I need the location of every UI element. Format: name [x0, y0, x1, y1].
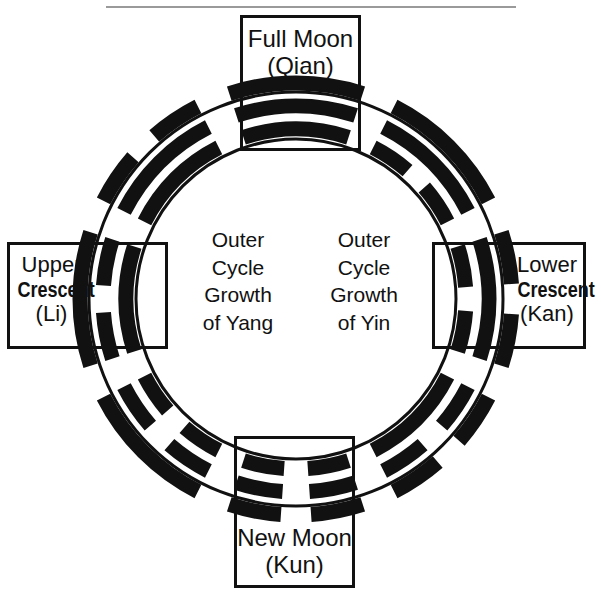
upper-crescent-line1: Upper — [10, 253, 93, 278]
legend-yang-line3: Growth — [182, 281, 294, 309]
legend-yin-line4: of Yin — [308, 309, 420, 337]
upper-crescent-line3: (Li) — [10, 302, 93, 327]
bagua-cycle-diagram: Full Moon (Qian) New Moon (Kun) Upper Cr… — [0, 0, 601, 597]
full-moon-line1: Full Moon — [243, 26, 358, 53]
center-legend-yin: Outer Cycle Growth of Yin — [308, 226, 420, 337]
label-box-full-moon: Full Moon (Qian) — [240, 15, 361, 151]
new-moon-line1: New Moon — [237, 525, 352, 552]
upper-crescent-line2: Crescent — [17, 278, 85, 303]
legend-yang-line4: of Yang — [182, 309, 294, 337]
label-box-upper-crescent: Upper Crescent (Li) — [7, 242, 168, 349]
label-box-lower-crescent: Lower Crescent (Kan) — [432, 242, 586, 349]
lower-crescent-line1: Lower — [511, 253, 583, 278]
lower-crescent-line2: Crescent — [517, 278, 576, 303]
legend-yin-line2: Cycle — [308, 254, 420, 282]
label-box-new-moon: New Moon (Kun) — [234, 436, 355, 588]
center-legend-yang: Outer Cycle Growth of Yang — [182, 226, 294, 337]
legend-yang-line2: Cycle — [182, 254, 294, 282]
lower-crescent-line3: (Kan) — [511, 302, 583, 327]
full-moon-line2: (Qian) — [243, 53, 358, 80]
legend-yang-line1: Outer — [182, 226, 294, 254]
legend-yin-line1: Outer — [308, 226, 420, 254]
legend-yin-line3: Growth — [308, 281, 420, 309]
new-moon-line2: (Kun) — [237, 552, 352, 579]
